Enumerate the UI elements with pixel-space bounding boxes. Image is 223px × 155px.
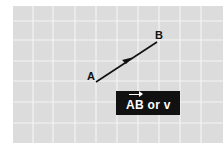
- grid-lines: [13, 6, 223, 143]
- point-b-label: B: [155, 29, 163, 41]
- vector-arrow-head-icon: [139, 91, 143, 97]
- vector-notation-box: AB or v: [116, 91, 180, 115]
- grid-and-vector: [0, 0, 223, 155]
- point-a-label: A: [87, 70, 95, 82]
- vector-notation-label: AB or v: [126, 98, 171, 112]
